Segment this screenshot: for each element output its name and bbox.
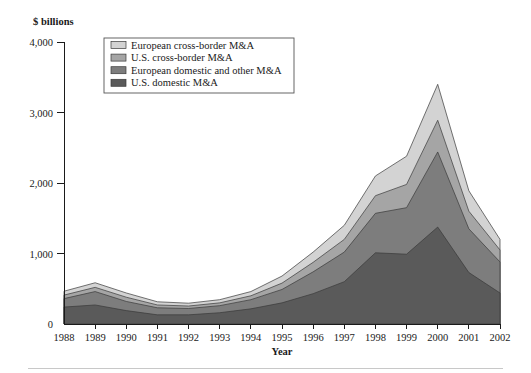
x-tick-label: 1997 xyxy=(334,332,355,343)
area-series-group xyxy=(64,84,500,324)
legend-swatch-2 xyxy=(111,54,126,61)
x-tick-label: 1999 xyxy=(396,332,417,343)
x-tick-label: 1991 xyxy=(147,332,168,343)
legend-swatch-3 xyxy=(111,67,126,74)
legend-swatch-4 xyxy=(111,79,126,86)
x-tick-label: 1992 xyxy=(178,332,199,343)
y-tick-label: 2,000 xyxy=(29,178,53,189)
x-tick-label: 2002 xyxy=(490,332,511,343)
legend-swatch-1 xyxy=(111,42,126,49)
x-tick-label: 2000 xyxy=(427,332,448,343)
legend-label-2: U.S. cross-border M&A xyxy=(131,52,233,63)
x-axis-ticks: 1988198919901991199219931994199519961997… xyxy=(54,324,511,343)
x-tick-label: 1994 xyxy=(240,332,262,343)
legend-label-3: European domestic and other M&A xyxy=(131,65,282,76)
legend-label-1: European cross-border M&A xyxy=(131,40,254,51)
x-tick-label: 1990 xyxy=(116,332,137,343)
y-tick-label: 1,000 xyxy=(29,249,53,260)
chart-legend: European cross-border M&AU.S. cross-bord… xyxy=(104,38,294,93)
chart-figure: $ billions 01,0002,0003,0004,000 1988198… xyxy=(0,0,531,373)
x-tick-label: 1993 xyxy=(209,332,230,343)
x-tick-label: 1996 xyxy=(303,332,324,343)
x-axis-title: Year xyxy=(272,346,293,357)
x-tick-label: 1989 xyxy=(85,332,106,343)
x-tick-label: 2001 xyxy=(458,332,479,343)
x-tick-label: 1995 xyxy=(272,332,293,343)
y-axis-unit-label-text: $ billions xyxy=(33,16,74,27)
y-axis-ticks: 01,0002,0003,0004,000 xyxy=(29,37,64,330)
x-axis-title-text: Year xyxy=(272,346,293,357)
legend-label-4: U.S. domestic M&A xyxy=(131,77,218,88)
x-tick-label: 1988 xyxy=(54,332,75,343)
y-tick-label: 3,000 xyxy=(29,108,53,119)
y-axis-unit-label: $ billions xyxy=(33,16,74,27)
stacked-area-chart: $ billions 01,0002,0003,0004,000 1988198… xyxy=(0,0,531,373)
x-tick-label: 1998 xyxy=(365,332,386,343)
y-tick-label: 4,000 xyxy=(29,37,53,48)
y-tick-label: 0 xyxy=(48,319,53,330)
